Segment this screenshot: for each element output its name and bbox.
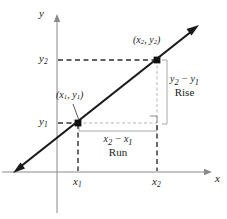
point-1-label: (x1, y1) [56, 90, 83, 101]
run-operator: − [112, 133, 124, 144]
point-1-marker [75, 120, 82, 127]
rise-bracket [162, 60, 167, 124]
x-tick-label-x1: x1 [73, 176, 82, 188]
x-axis-label: x [215, 173, 220, 185]
run-annotation: x2 − x1 Run [95, 134, 141, 159]
rise-word: Rise [170, 87, 199, 99]
diagram-canvas [0, 0, 227, 219]
point-2-label: (x2, y2) [133, 35, 160, 46]
rise-term2-sub: 1 [195, 78, 199, 87]
y-tick-y1-sub: 1 [44, 120, 48, 129]
run-bracket [79, 126, 157, 131]
x-tick-label-x2: x2 [152, 176, 161, 188]
y-tick-label-y1: y1 [39, 116, 48, 128]
y-axis-arrowhead [54, 14, 60, 22]
run-term2-sub: 1 [128, 138, 132, 147]
triangle-guides [78, 60, 157, 123]
run-word: Run [95, 147, 141, 159]
y-tick-label-y2: y2 [39, 53, 48, 65]
x-tick-x2-sub: 2 [157, 180, 161, 189]
point-1-leader-line [73, 104, 79, 119]
y-tick-y2-sub: 2 [44, 57, 48, 66]
right-angle-marker [150, 116, 157, 123]
y-axis-label: y [39, 8, 44, 20]
point-2-close-paren: ) [157, 34, 160, 45]
x-axis [2, 169, 212, 175]
rise-annotation: y2 − y1 Rise [170, 74, 199, 99]
point-2-marker [154, 57, 161, 64]
x-axis-arrowhead [204, 169, 212, 175]
rise-operator: − [179, 73, 191, 84]
point-1-close-paren: ) [80, 89, 83, 100]
slope-diagram-figure: y x y2 y1 x1 x2 (x2, y2) (x1, y1) y2 − y… [0, 0, 227, 219]
x-tick-x1-sub: 1 [78, 180, 82, 189]
y-axis [54, 14, 60, 213]
